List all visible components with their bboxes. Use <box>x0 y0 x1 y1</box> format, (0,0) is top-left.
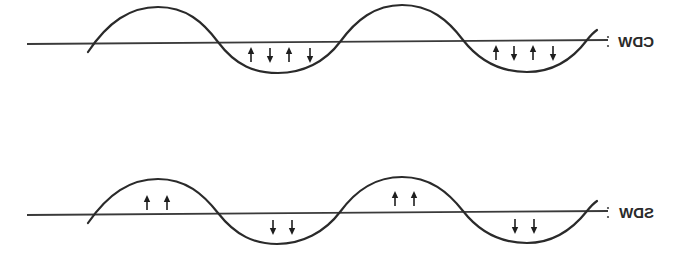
sdw-peak-1-arrows <box>144 195 170 210</box>
spin-down-arrow-icon <box>550 46 556 61</box>
sdw-peak-2-arrows <box>392 191 417 206</box>
cdw-trough-1-arrows <box>248 47 313 63</box>
spin-down-arrow-icon <box>267 48 273 63</box>
sdw-label-group: SDW <box>607 204 654 221</box>
spin-up-arrow-icon <box>392 191 398 206</box>
cdw-panel: CDW <box>27 5 654 73</box>
spin-up-arrow-icon <box>164 195 170 210</box>
spin-up-arrow-icon <box>411 191 417 206</box>
cdw-label-group: CDW <box>607 33 654 50</box>
spin-up-arrow-icon <box>286 47 292 62</box>
spin-down-arrow-icon <box>307 48 313 63</box>
spin-down-arrow-icon <box>270 220 276 235</box>
spin-up-arrow-icon <box>248 47 254 62</box>
spin-down-arrow-icon <box>289 220 295 235</box>
sdw-baseline <box>27 211 608 215</box>
cdw-wave <box>88 5 597 73</box>
colon-icon <box>607 45 609 47</box>
cdw-label: CDW <box>617 33 654 50</box>
colon-icon <box>607 216 609 218</box>
spin-down-arrow-icon <box>512 219 518 234</box>
spin-down-arrow-icon <box>511 46 517 61</box>
cdw-baseline <box>27 40 608 44</box>
spin-up-arrow-icon <box>144 195 150 210</box>
sdw-trough-2-arrows <box>512 219 537 234</box>
spin-up-arrow-icon <box>493 45 499 60</box>
sdw-label: SDW <box>618 204 654 221</box>
colon-icon <box>607 36 609 38</box>
spin-up-arrow-icon <box>530 45 536 60</box>
colon-icon <box>607 207 609 209</box>
sdw-panel: SDW <box>27 177 654 244</box>
cdw-trough-2-arrows <box>493 45 556 61</box>
density-wave-diagram: CDW SDW <box>0 0 680 267</box>
sdw-wave <box>88 177 597 244</box>
spin-down-arrow-icon <box>531 219 537 234</box>
sdw-trough-1-arrows <box>270 220 295 235</box>
